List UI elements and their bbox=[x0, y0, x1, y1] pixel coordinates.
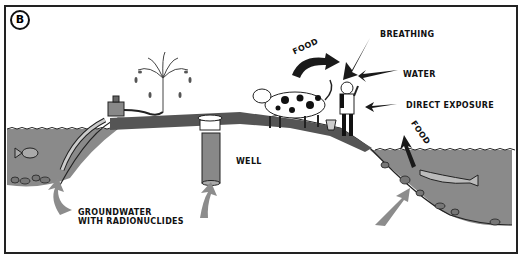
label-groundwater-line2: WITH RADIONUCLIDES bbox=[78, 217, 184, 226]
bucket bbox=[326, 120, 336, 130]
label-water: WATER bbox=[403, 70, 436, 79]
label-well: WELL bbox=[236, 157, 262, 166]
label-direct-exposure: DIRECT EXPOSURE bbox=[406, 101, 494, 110]
man-drinking bbox=[340, 82, 358, 136]
water-arrow bbox=[358, 70, 398, 82]
label-breathing: BREATHING bbox=[380, 30, 434, 39]
food-cow-arrow bbox=[292, 53, 340, 78]
sprinkler-fountain bbox=[138, 52, 188, 112]
soil-surface bbox=[110, 112, 372, 152]
label-groundwater: GROUNDWATER bbox=[78, 208, 152, 217]
panel-label-badge: B bbox=[10, 10, 30, 30]
direct-exposure-arrow bbox=[365, 102, 397, 112]
pump bbox=[108, 102, 124, 116]
well-shaft bbox=[202, 133, 220, 183]
